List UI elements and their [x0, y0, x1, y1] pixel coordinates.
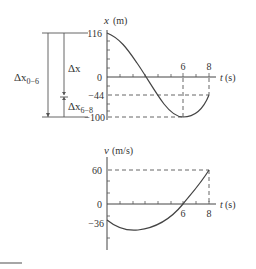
- delta-x-0-6-label: Δx0−6: [14, 71, 39, 86]
- v-label: v: [104, 144, 109, 156]
- tick-label-0: 0: [97, 72, 102, 83]
- kinematics-diagram: x (m) 116 0 −44 −100 6 8 t (s) Δx0−6 Δx …: [0, 0, 256, 269]
- t-label: t: [220, 72, 223, 83]
- tick-label-116: 116: [87, 28, 102, 39]
- y-label: x: [103, 14, 109, 26]
- arrowhead-icon: [62, 92, 66, 95]
- tick-label-t6-bottom: 6: [181, 208, 186, 219]
- arrowhead-icon: [46, 113, 50, 117]
- position-time-graph: x (m) 116 0 −44 −100 6 8 t (s): [84, 14, 235, 123]
- t-label-unit-bottom: (s): [225, 199, 236, 211]
- tick-label-t8: 8: [207, 61, 212, 72]
- tick-label-v0: 0: [97, 199, 102, 210]
- tick-label-minus44: −44: [88, 90, 104, 101]
- tick-label-t8-bottom: 8: [207, 208, 212, 219]
- velocity-curve: [107, 170, 209, 230]
- tick-label-minus36: −36: [88, 218, 104, 229]
- v-label-unit: (m/s): [112, 145, 133, 157]
- t-axis-ticks: [120, 73, 209, 77]
- displacement-brackets: Δx0−6 Δx Δx6−8: [14, 33, 93, 117]
- delta-x-label: Δx: [68, 62, 81, 74]
- y-label-unit: (m): [113, 15, 127, 27]
- delta-x-6-8-label: Δx6−8: [68, 100, 93, 115]
- tick-label-60: 60: [92, 165, 102, 176]
- t-label-unit: (s): [225, 72, 236, 84]
- t-label-bottom: t: [220, 199, 223, 210]
- velocity-time-graph: v (m/s) 60 0 −36 6 8 t (s): [88, 144, 235, 250]
- tick-label-t6: 6: [181, 61, 186, 72]
